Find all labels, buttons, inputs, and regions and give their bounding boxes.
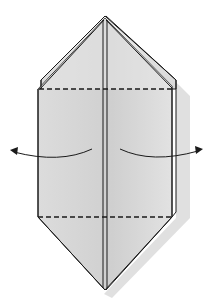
right-corner-join bbox=[172, 212, 176, 217]
origami-figure bbox=[0, 0, 212, 308]
origami-diagram bbox=[0, 0, 212, 308]
top-triangle bbox=[38, 18, 172, 89]
